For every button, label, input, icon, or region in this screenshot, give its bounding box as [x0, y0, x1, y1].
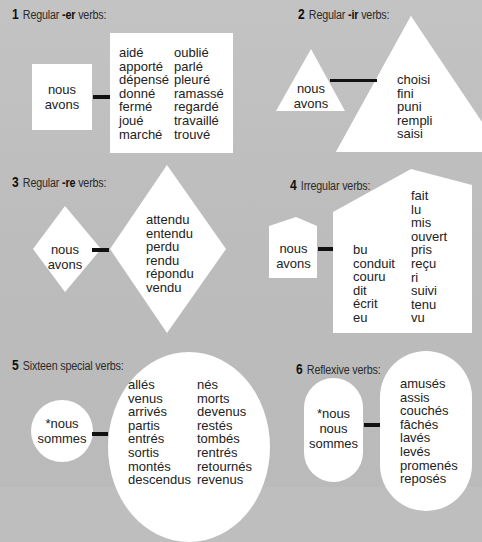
- participle: tenu: [411, 298, 447, 312]
- participle: suivi: [411, 284, 447, 298]
- aux-line: nous: [269, 241, 318, 256]
- participle: vu: [411, 311, 447, 325]
- participle: écrit: [353, 297, 395, 311]
- participle: partis: [128, 419, 191, 433]
- auxiliary-text: nous avons: [269, 241, 318, 271]
- participle: retournés: [197, 460, 252, 474]
- aux-line: sommes: [31, 431, 93, 446]
- participle: arrivés: [128, 405, 191, 419]
- participle: reposés: [400, 472, 458, 486]
- auxiliary-text: *nous nous sommes: [304, 406, 363, 451]
- participle: lavés: [400, 431, 458, 445]
- participle: sortis: [128, 446, 191, 460]
- section-number: 6: [296, 361, 303, 377]
- participle: morts: [197, 392, 252, 406]
- aux-line: sommes: [304, 436, 363, 451]
- title-prefix: Sixteen special verbs:: [23, 359, 124, 373]
- participle: ri: [411, 271, 447, 285]
- participle: lu: [411, 203, 447, 217]
- aux-line: avons: [269, 256, 318, 271]
- participle: reçu: [411, 257, 447, 271]
- participle: allés: [128, 378, 191, 392]
- participle: mis: [411, 216, 447, 230]
- participle: revenus: [197, 473, 252, 487]
- connector-bar: [318, 247, 333, 251]
- participle: couru: [353, 270, 395, 284]
- section-number: 5: [12, 357, 19, 373]
- participle: levés: [400, 445, 458, 459]
- participle: rentrés: [197, 446, 252, 460]
- participle-column-2: fait lu mis ouvert pris reçu ri suivi te…: [411, 189, 447, 325]
- participle: couchés: [400, 404, 458, 418]
- section-6-title: 6Reflexive verbs:: [296, 361, 381, 377]
- participle-column-1: amusés assis couchés fâchés lavés levés …: [400, 377, 458, 486]
- participle: promenés: [400, 459, 458, 473]
- auxiliary-text: *nous sommes: [31, 416, 93, 446]
- participle: fait: [411, 189, 447, 203]
- participle: amusés: [400, 377, 458, 391]
- participle: descendus: [128, 473, 191, 487]
- aux-line: *nous: [31, 416, 93, 431]
- title-prefix: Reflexive verbs:: [307, 363, 381, 377]
- participle: entrés: [128, 432, 191, 446]
- participle: ouvert: [411, 230, 447, 244]
- participle: conduit: [353, 257, 395, 271]
- participle-column-1: allés venus arrivés partis entrés sortis…: [128, 378, 191, 487]
- participle: devenus: [197, 405, 252, 419]
- participle: tombés: [197, 432, 252, 446]
- participle-column-2: nés morts devenus restés tombés rentrés …: [197, 378, 252, 487]
- participle: dit: [353, 284, 395, 298]
- participle: assis: [400, 391, 458, 405]
- participle: fâchés: [400, 418, 458, 432]
- participle: bu: [353, 243, 395, 257]
- aux-line: *nous: [304, 406, 363, 421]
- connector-bar: [364, 423, 380, 427]
- participle: eu: [353, 311, 395, 325]
- section-5-title: 5Sixteen special verbs:: [12, 357, 124, 373]
- participle: restés: [197, 419, 252, 433]
- participle: pris: [411, 243, 447, 257]
- aux-line: nous: [304, 421, 363, 436]
- participle: venus: [128, 392, 191, 406]
- participle: nés: [197, 378, 252, 392]
- participle-column-1: bu conduit couru dit écrit eu: [353, 243, 395, 325]
- participle: montés: [128, 460, 191, 474]
- connector-bar: [92, 432, 108, 436]
